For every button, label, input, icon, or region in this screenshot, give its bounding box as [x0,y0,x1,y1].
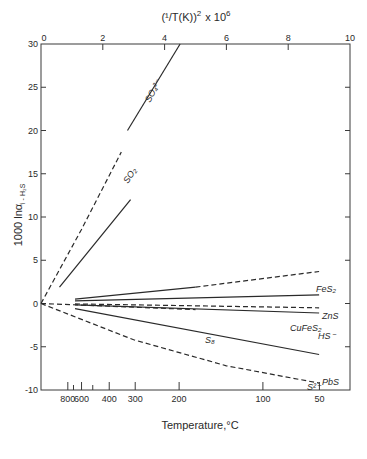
chart: 0246810 302520151050-5-10 80060040030020… [0,0,367,459]
series-so2 [60,200,131,287]
series-line-dashed [41,304,319,384]
bottom-tick-label: 50 [314,394,324,404]
series-label: HS⁻ [318,331,337,341]
y-tick-label: 30 [28,39,38,49]
series-line-solid [75,287,196,299]
series-label: FeS₂ [316,284,337,294]
top-tick-label: 2 [100,33,105,43]
top-tick-label: 6 [224,33,229,43]
series-lines [41,44,319,383]
bottom-tick-label: 100 [255,394,270,404]
y-tick-label: 15 [28,169,38,179]
y-tick-label: 20 [28,126,38,136]
right-axis [345,87,350,347]
top-tick-label: 0 [41,33,46,43]
top-axis-title: (¹/T(K))2x 106 [161,9,231,23]
series-labels: SO₄²⁻SO₂FeS₂ZnSCuFeS₂HS⁻S₈PbSS²⁻ [121,77,339,392]
y-tick-label: -5 [30,342,38,352]
series-line-dashed [41,152,121,303]
y-axis-title: 1000 lnαi - H₂S [12,183,26,246]
y-axis-title-main: 1000 lnα [12,203,24,246]
top-tick-label: 10 [345,33,355,43]
series-s2 [41,304,319,384]
series-label: ZnS [321,311,339,321]
series-fes2 [75,272,319,300]
y-tick-label: -10 [25,385,38,395]
bottom-tick-label: 600 [74,394,89,404]
bottom-tick-label: 200 [172,394,187,404]
series-line-solid [60,200,131,287]
series-label: S²⁻ [307,382,322,392]
y-tick-label: 0 [33,299,38,309]
left-axis: 302520151050-5-10 [25,39,46,395]
bottom-tick-label: 300 [128,394,143,404]
series-label: SO₄²⁻ [143,77,164,104]
series-label: S₈ [205,335,215,345]
top-axis: 0246810 [41,33,355,50]
series-label: SO₂ [121,165,138,185]
top-tick-label: 8 [286,33,291,43]
series-label: PbS [322,377,339,387]
svg-text:1000 lnαi - H₂S: 1000 lnαi - H₂S [12,183,26,246]
y-tick-label: 5 [33,255,38,265]
bottom-tick-label: 400 [102,394,117,404]
y-tick-label: 10 [28,212,38,222]
y-tick-label: 25 [28,82,38,92]
bottom-axis: 80060040030020010050 [60,382,324,404]
top-tick-label: 4 [162,33,167,43]
x-axis-title: Temperature,°C [161,419,238,431]
y-axis-title-sub: i - H₂S [19,183,26,204]
series-line-dashed [196,272,320,288]
